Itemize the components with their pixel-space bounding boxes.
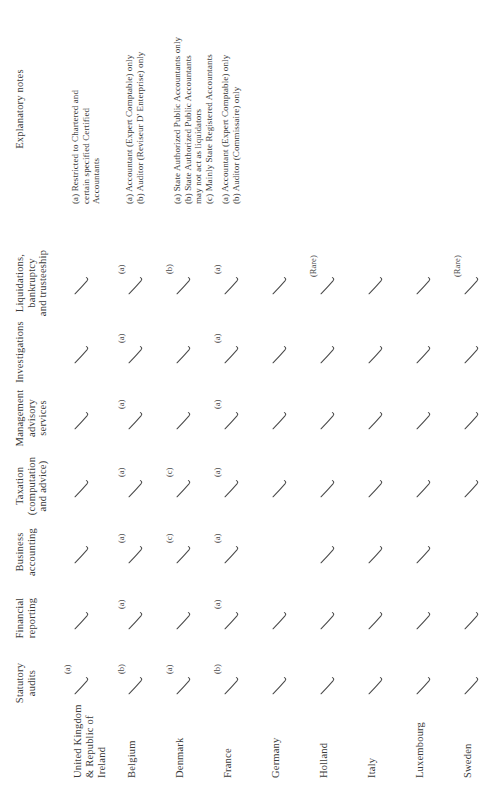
cell-note: (a)	[213, 303, 222, 343]
tick-mark	[320, 544, 336, 564]
tick-mark	[74, 675, 90, 695]
tick-mark	[368, 478, 384, 498]
tick-mark	[128, 478, 144, 498]
tick-mark	[128, 275, 144, 295]
tick-mark	[272, 610, 288, 630]
cell-note: (a)	[165, 634, 174, 674]
tick-mark	[128, 344, 144, 364]
tick-mark	[368, 544, 384, 564]
explanatory-note-0: (a) Restricted to Chartered and certain …	[70, 6, 102, 204]
tick-mark	[74, 344, 90, 364]
cell-note: (c)	[165, 503, 174, 543]
tick-mark	[74, 478, 90, 498]
cell-note: (a)	[213, 437, 222, 477]
cell-note: (Rare)	[309, 237, 318, 277]
tick-mark	[368, 344, 384, 364]
column-header-6: Liquidations, bankruptcy and trusteeship	[14, 237, 49, 329]
tick-mark	[416, 275, 432, 295]
tick-mark	[176, 478, 192, 498]
tick-mark	[368, 410, 384, 430]
tick-mark	[74, 410, 90, 430]
row-label-2: Denmark	[174, 686, 186, 778]
tick-mark	[128, 610, 144, 630]
row-label-6: Italy	[366, 686, 378, 778]
tick-mark	[320, 410, 336, 430]
tick-mark	[272, 478, 288, 498]
tick-mark	[176, 544, 192, 564]
tick-mark	[272, 675, 288, 695]
cell-note: (a)	[117, 503, 126, 543]
tick-mark	[224, 478, 240, 498]
explanatory-note-1: (a) Accountant (Expert Comptable) only (…	[124, 6, 145, 204]
tick-mark	[176, 675, 192, 695]
tick-mark	[74, 275, 90, 295]
row-label-8: Sweden	[462, 686, 474, 778]
tick-mark	[416, 544, 432, 564]
tick-mark	[224, 344, 240, 364]
cell-note: (b)	[213, 634, 222, 674]
tick-mark	[320, 478, 336, 498]
tick-mark	[320, 675, 336, 695]
cell-note: (a)	[117, 569, 126, 609]
tick-mark	[272, 275, 288, 295]
tick-mark	[224, 610, 240, 630]
explanatory-notes-header: Explanatory notes	[14, 14, 26, 204]
professional-services-table: Statutory auditsFinancial reportingBusin…	[0, 0, 487, 790]
explanatory-note-3: (a) Accountant (Expert Comptable) only (…	[220, 6, 241, 204]
row-label-7: Luxembourg	[414, 686, 426, 778]
tick-mark	[464, 675, 480, 695]
tick-mark	[416, 410, 432, 430]
cell-note: (c)	[165, 437, 174, 477]
tick-mark	[74, 544, 90, 564]
tick-mark	[176, 344, 192, 364]
tick-mark	[176, 410, 192, 430]
tick-mark	[176, 275, 192, 295]
tick-mark	[74, 610, 90, 630]
cell-note: (a)	[213, 569, 222, 609]
row-label-5: Holland	[318, 686, 330, 778]
tick-mark	[320, 610, 336, 630]
tick-mark	[416, 675, 432, 695]
cell-note: (a)	[117, 369, 126, 409]
cell-note: (a)	[213, 234, 222, 274]
tick-mark	[224, 675, 240, 695]
row-label-1: Belgium	[126, 686, 138, 778]
cell-note: (a)	[213, 369, 222, 409]
row-label-4: Germany	[270, 686, 282, 778]
cell-note: (b)	[165, 234, 174, 274]
cell-note: (a)	[63, 634, 72, 674]
tick-mark	[224, 275, 240, 295]
tick-mark	[464, 344, 480, 364]
tick-mark	[464, 478, 480, 498]
tick-mark	[320, 344, 336, 364]
tick-mark	[272, 410, 288, 430]
tick-mark	[464, 275, 480, 295]
tick-mark	[176, 610, 192, 630]
tick-mark	[368, 675, 384, 695]
tick-mark	[224, 410, 240, 430]
cell-note: (a)	[117, 437, 126, 477]
tick-mark	[320, 275, 336, 295]
row-label-3: France	[222, 686, 234, 778]
tick-mark	[224, 544, 240, 564]
tick-mark	[128, 675, 144, 695]
tick-mark	[368, 610, 384, 630]
cell-note: (a)	[213, 503, 222, 543]
tick-mark	[416, 344, 432, 364]
tick-mark	[416, 478, 432, 498]
tick-mark	[464, 610, 480, 630]
row-label-0: United Kingdom & Republic of Ireland	[72, 686, 108, 778]
tick-mark	[272, 344, 288, 364]
tick-mark	[464, 410, 480, 430]
rotated-table-wrapper: Statutory auditsFinancial reportingBusin…	[0, 0, 487, 790]
cell-note: (a)	[117, 303, 126, 343]
tick-mark	[128, 544, 144, 564]
tick-mark	[416, 610, 432, 630]
cell-note: (a)	[117, 234, 126, 274]
tick-mark	[128, 410, 144, 430]
explanatory-note-2: (a) State Authorized Public Accountants …	[172, 6, 214, 204]
tick-mark	[368, 275, 384, 295]
cell-note: (Rare)	[453, 237, 462, 277]
cell-note: (b)	[117, 634, 126, 674]
